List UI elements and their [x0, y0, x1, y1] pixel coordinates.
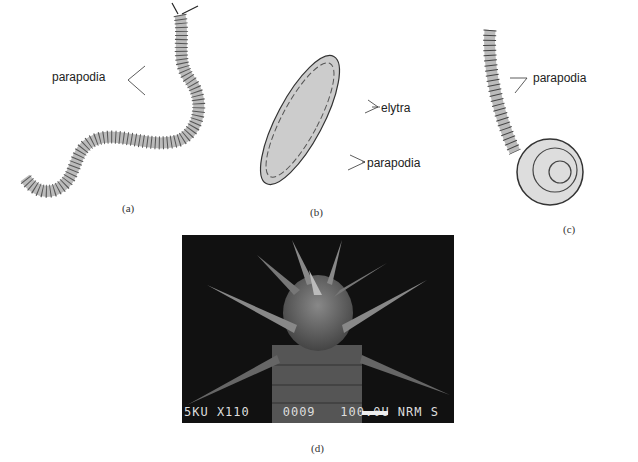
worm-c-illustration [490, 30, 583, 205]
sem-micrograph: 5KU X110 0009 100.0U NRM S [182, 235, 454, 423]
sem-info-bar: 5KU X110 0009 100.0U NRM S [184, 405, 439, 419]
caption-d: (d) [311, 442, 324, 454]
scale-bar [362, 411, 388, 415]
caption-a: (a) [122, 202, 134, 214]
label-parapodia-b: parapodia [367, 156, 420, 170]
worm-b-illustration [246, 46, 380, 195]
label-parapodia-c: parapodia [533, 71, 586, 85]
worm-a-illustration [25, 3, 199, 191]
label-elytra: elytra [381, 101, 410, 115]
label-parapodia-a: parapodia [52, 70, 105, 84]
sem-worm-head [182, 235, 454, 423]
caption-b: (b) [310, 206, 323, 218]
caption-c: (c) [563, 223, 575, 235]
